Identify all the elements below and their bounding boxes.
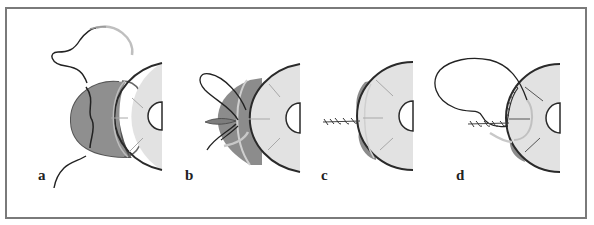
needle — [96, 27, 132, 55]
panel-label-b: b — [185, 167, 193, 183]
panel-b: b — [185, 64, 300, 183]
panel-label-d: d — [456, 167, 465, 183]
panel-d: d — [435, 58, 560, 183]
panel-label-a: a — [38, 167, 46, 183]
twisted-suture — [468, 123, 509, 124]
panel-a: a — [38, 27, 162, 188]
panel-c: c — [321, 62, 413, 183]
panel-label-c: c — [321, 167, 328, 183]
suture-diagram: a b c — [0, 0, 594, 225]
